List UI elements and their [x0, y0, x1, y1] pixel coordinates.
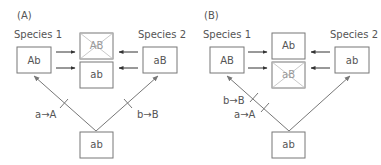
- hybrid-box: ab: [80, 62, 113, 88]
- species1-box: AB: [210, 47, 244, 73]
- panel-b: (B) Species 1 Species 2 AB ab Ab aB ab: [203, 10, 378, 158]
- species1-label: Species 1: [14, 29, 62, 40]
- ancestor-box: ab: [80, 132, 113, 158]
- mutation-label: b→B: [137, 109, 159, 120]
- hybrid-genotype: aB: [282, 69, 295, 80]
- ancestor-genotype: ab: [90, 139, 102, 150]
- species1-genotype: AB: [220, 55, 234, 66]
- species1-label: Species 1: [203, 29, 251, 40]
- hybrid-genotype: ab: [90, 69, 102, 80]
- panel-a: (A) Species 1 Species 2 Ab aB AB ab ab: [14, 10, 186, 158]
- mutation-label: b→B: [223, 95, 245, 106]
- panel-a-label: (A): [17, 10, 32, 21]
- species1-genotype: Ab: [27, 55, 40, 66]
- hybrid-box-crossed: AB: [80, 33, 113, 59]
- panel-b-label: (B): [204, 10, 219, 21]
- hybrid-box-crossed: aB: [272, 62, 305, 88]
- hybrid-box: Ab: [272, 33, 305, 59]
- species2-label: Species 2: [330, 29, 378, 40]
- hybrid-incompatibility-diagram: (A) Species 1 Species 2 Ab aB AB ab ab: [0, 0, 381, 165]
- species1-box: Ab: [17, 47, 51, 73]
- hybrid-genotype: Ab: [282, 40, 295, 51]
- species2-box: aB: [143, 47, 177, 73]
- species2-box: ab: [335, 47, 369, 73]
- hybrid-genotype: AB: [90, 40, 104, 51]
- ancestor-box: ab: [272, 132, 305, 158]
- species2-genotype: ab: [346, 55, 358, 66]
- species2-genotype: aB: [154, 55, 167, 66]
- mutation-label: a→A: [234, 109, 256, 120]
- ancestor-genotype: ab: [282, 139, 294, 150]
- mutation-label: a→A: [35, 109, 57, 120]
- species2-label: Species 2: [138, 29, 186, 40]
